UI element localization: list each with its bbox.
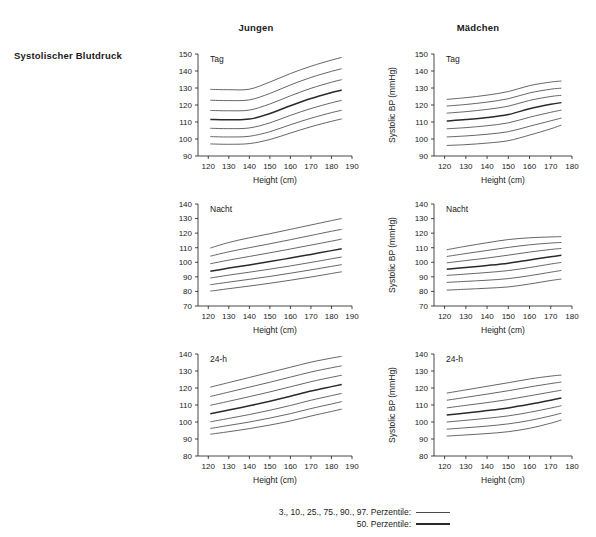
chart-girls-nacht: 7080901001101201301401201301401501601701… (382, 194, 582, 344)
y-tick-label: 120 (415, 101, 429, 110)
x-tick-label: 180 (325, 462, 339, 471)
panel-girls-24h: 8090100110120130140120130140150160170180… (382, 344, 582, 494)
x-tick-label: 140 (480, 162, 494, 171)
panel-title: Tag (210, 54, 224, 64)
x-tick-label: 160 (523, 462, 537, 471)
panel-title: Tag (446, 54, 460, 64)
y-tick-label: 80 (419, 287, 428, 296)
percentile-curve (447, 375, 562, 393)
y-tick-label: 140 (415, 200, 429, 209)
x-tick-label: 160 (284, 462, 298, 471)
y-tick-label: 130 (415, 84, 429, 93)
chart-boys-24h: 8090100110120130140120130140150160170180… (160, 344, 360, 494)
percentile-curve (210, 393, 341, 421)
y-tick-label: 110 (179, 401, 192, 410)
y-tick-label: 100 (415, 258, 429, 267)
x-tick-label: 170 (304, 312, 318, 321)
x-tick-label: 150 (263, 462, 277, 471)
y-tick-label: 130 (415, 367, 429, 376)
legend-row-median-percentile: 50. Perzentile: (150, 518, 450, 530)
x-tick-label: 120 (438, 162, 452, 171)
x-axis-title: Height (cm) (481, 475, 525, 485)
x-axis-title: Height (cm) (253, 175, 297, 185)
y-tick-label: 150 (179, 50, 193, 59)
panel-girls-tag: 9010011012013014015012013014015016017018… (382, 44, 582, 194)
y-tick-label: 90 (419, 435, 428, 444)
y-tick-label: 120 (179, 101, 193, 110)
y-tick-label: 130 (179, 367, 193, 376)
y-tick-label: 100 (179, 135, 193, 144)
x-tick-label: 130 (459, 462, 473, 471)
y-tick-label: 90 (183, 152, 192, 161)
x-tick-label: 130 (222, 462, 236, 471)
legend-label-median-percentile: 50. Perzentile: (357, 519, 411, 529)
panel-title: Nacht (210, 204, 233, 214)
x-tick-label: 190 (345, 462, 359, 471)
percentile-curve (210, 384, 341, 413)
percentile-curve (210, 375, 341, 405)
percentile-curve (210, 409, 341, 434)
y-axis-title: Systolic BP (mmHg) (387, 217, 397, 293)
y-tick-label: 140 (415, 67, 429, 76)
y-tick-label: 140 (179, 200, 193, 209)
x-tick-label: 130 (459, 312, 473, 321)
x-tick-label: 140 (243, 312, 257, 321)
y-tick-label: 100 (415, 418, 429, 427)
y-tick-label: 70 (183, 302, 192, 311)
x-tick-label: 130 (222, 162, 236, 171)
panel-girls-nacht: 7080901001101201301401201301401501601701… (382, 194, 582, 344)
x-tick-label: 170 (544, 312, 558, 321)
x-tick-label: 180 (325, 312, 339, 321)
y-tick-label: 120 (415, 229, 429, 238)
percentile-curve (447, 413, 562, 429)
y-tick-label: 80 (183, 287, 192, 296)
legend-row-outer-percentiles: 3., 10., 25., 75., 90., 97. Perzentile: (150, 506, 450, 518)
y-tick-label: 90 (419, 152, 428, 161)
y-tick-label: 100 (179, 258, 193, 267)
x-tick-label: 150 (263, 312, 277, 321)
figure-root: Jungen Mädchen Systolischer Blutdruck 90… (0, 0, 596, 537)
y-tick-label: 140 (415, 350, 429, 359)
y-tick-label: 70 (419, 302, 428, 311)
y-tick-label: 80 (183, 452, 192, 461)
x-tick-label: 170 (304, 162, 318, 171)
panel-title: 24-h (446, 354, 463, 364)
y-tick-label: 120 (415, 384, 429, 393)
percentile-curve (447, 390, 562, 408)
percentile-curve (447, 248, 562, 262)
percentile-curve (447, 382, 562, 400)
y-tick-label: 130 (415, 214, 429, 223)
chart-boys-tag: 9010011012013014015012013014015016017018… (160, 44, 360, 194)
x-axis-title: Height (cm) (481, 175, 525, 185)
panel-boys-24h: 8090100110120130140120130140150160170180… (160, 344, 360, 494)
y-tick-label: 110 (415, 401, 428, 410)
legend: 3., 10., 25., 75., 90., 97. Perzentile: … (150, 506, 450, 530)
y-tick-label: 90 (183, 435, 192, 444)
y-tick-label: 150 (415, 50, 429, 59)
x-tick-label: 180 (565, 162, 579, 171)
x-tick-label: 180 (565, 312, 579, 321)
panel-title: Nacht (446, 204, 469, 214)
y-tick-label: 90 (419, 273, 428, 282)
percentile-curve (210, 356, 341, 387)
y-tick-label: 110 (179, 118, 192, 127)
x-tick-label: 150 (502, 162, 516, 171)
y-axis-title: Systolic BP (mmHg) (387, 367, 397, 443)
percentile-curve (210, 402, 341, 429)
x-tick-label: 190 (345, 312, 359, 321)
x-tick-label: 150 (502, 312, 516, 321)
panel-boys-nacht: 7080901001101201301401201301401501601701… (160, 194, 360, 344)
x-tick-label: 120 (438, 462, 452, 471)
x-tick-label: 120 (202, 462, 216, 471)
y-tick-label: 130 (179, 84, 193, 93)
x-tick-label: 180 (325, 162, 339, 171)
y-tick-label: 120 (179, 384, 193, 393)
x-tick-label: 160 (284, 162, 298, 171)
percentile-curve (447, 270, 562, 282)
x-tick-label: 130 (222, 312, 236, 321)
legend-label-outer-percentiles: 3., 10., 25., 75., 90., 97. Perzentile: (279, 507, 411, 517)
percentile-curve (447, 88, 562, 106)
x-axis-title: Height (cm) (253, 475, 297, 485)
percentile-curve (210, 119, 341, 144)
panel-title: 24-h (210, 354, 227, 364)
